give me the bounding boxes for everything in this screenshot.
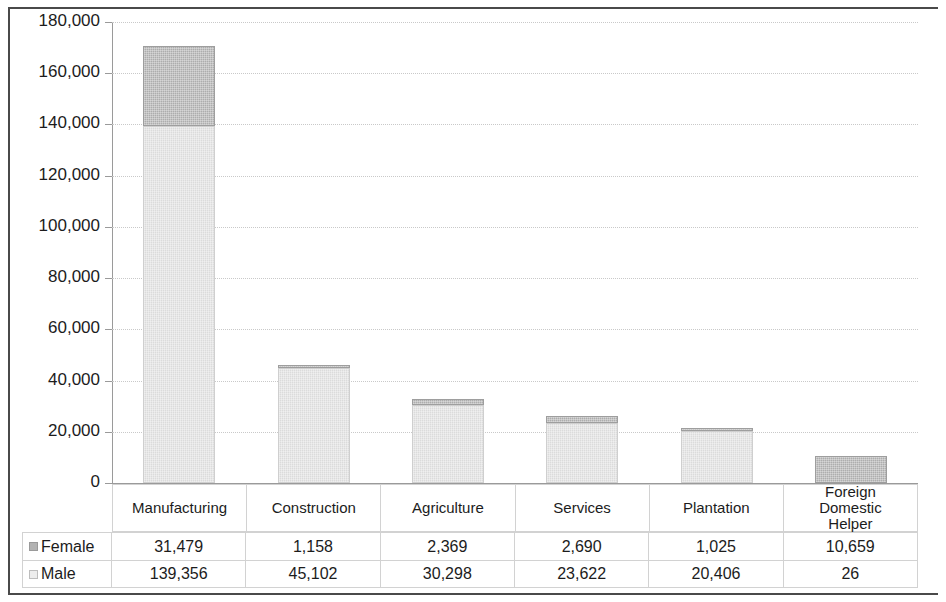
table-cell: 23,622 (515, 560, 649, 588)
bar-group[interactable] (546, 22, 618, 483)
category-label-construction: Construction (247, 484, 381, 532)
gridline (112, 329, 918, 330)
table-cell: 1,158 (246, 532, 380, 560)
bar-group[interactable] (143, 22, 215, 483)
bar-segment-female[interactable] (681, 428, 753, 431)
legend-item-male[interactable]: Male (22, 560, 112, 588)
category-label-foreign-domestic-helper: ForeignDomesticHelper (784, 484, 918, 532)
gridline (112, 22, 918, 23)
gridline (112, 176, 918, 177)
bar-segment-female[interactable] (546, 416, 618, 423)
y-axis-tick (105, 278, 112, 279)
legend-label: Female (41, 538, 94, 556)
y-axis-tick (105, 176, 112, 177)
table-cell: 31,479 (112, 532, 246, 560)
y-axis-tick (105, 73, 112, 74)
table-cell: 2,369 (381, 532, 515, 560)
bar-segment-male[interactable] (546, 423, 618, 483)
category-label-agriculture: Agriculture (381, 484, 515, 532)
gridline (112, 124, 918, 125)
table-cell: 2,690 (515, 532, 649, 560)
y-axis-tick (105, 381, 112, 382)
y-axis-tick (105, 432, 112, 433)
y-axis-tick (105, 329, 112, 330)
bar-group[interactable] (815, 22, 887, 483)
bar-group[interactable] (412, 22, 484, 483)
bar-segment-female[interactable] (412, 399, 484, 405)
table-cell: 30,298 (381, 560, 515, 588)
table-cell: 20,406 (649, 560, 783, 588)
table-row: Female31,4791,1582,3692,6901,02510,659 (22, 532, 918, 560)
bar-group[interactable] (278, 22, 350, 483)
bar-segment-female[interactable] (278, 365, 350, 368)
bar-segment-female[interactable] (815, 456, 887, 483)
table-cell: 1,025 (649, 532, 783, 560)
gridline (112, 227, 918, 228)
plot-area (112, 22, 918, 483)
category-label-manufacturing: Manufacturing (112, 484, 247, 532)
gridline (112, 432, 918, 433)
table-cell: 45,102 (246, 560, 380, 588)
table-cell: 10,659 (784, 532, 918, 560)
male-swatch-icon (29, 570, 38, 579)
category-label-row: ManufacturingConstructionAgricultureServ… (112, 484, 918, 532)
bar-segment-male[interactable] (681, 431, 753, 483)
legend-label: Male (41, 565, 76, 583)
bar-segment-male[interactable] (278, 368, 350, 484)
table-cell: 139,356 (112, 560, 246, 588)
bar-segment-male[interactable] (412, 405, 484, 483)
bar-segment-female[interactable] (143, 46, 215, 127)
y-axis-tick (105, 227, 112, 228)
y-axis-tick (105, 22, 112, 23)
gridline (112, 381, 918, 382)
category-label-plantation: Plantation (650, 484, 784, 532)
bar-group[interactable] (681, 22, 753, 483)
chart-screenshot: 180,000160,000140,000120,000100,00080,00… (0, 0, 946, 602)
bar-segment-male[interactable] (143, 126, 215, 483)
category-label-services: Services (516, 484, 650, 532)
y-axis-tick (105, 483, 112, 484)
table-cell: 26 (784, 560, 918, 588)
gridline (112, 278, 918, 279)
y-axis-tick (105, 124, 112, 125)
data-table: Female31,4791,1582,3692,6901,02510,659Ma… (22, 532, 918, 588)
table-row: Male139,35645,10230,29823,62220,40626 (22, 560, 918, 588)
gridline (112, 73, 918, 74)
legend-item-female[interactable]: Female (22, 532, 112, 560)
female-swatch-icon (29, 542, 38, 551)
